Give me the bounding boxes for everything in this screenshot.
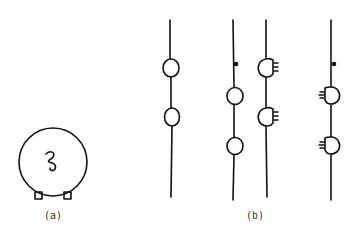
panel-b-thread-1 xyxy=(163,20,180,197)
panel-b-thread-2 xyxy=(227,20,243,200)
panel-a-drawing xyxy=(19,128,87,199)
diagram-canvas xyxy=(0,0,360,237)
panel-b-label: (b) xyxy=(246,210,264,221)
panel-b-thread-3 xyxy=(258,20,278,197)
panel-a-label: (a) xyxy=(44,210,62,221)
panel-b-thread-4 xyxy=(319,20,340,200)
